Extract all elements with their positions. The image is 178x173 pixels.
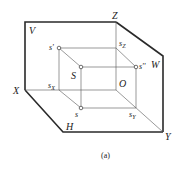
label-s: s bbox=[75, 110, 78, 119]
line-sz-s2 bbox=[116, 48, 136, 67]
label-s-double-prime: s'' bbox=[139, 62, 146, 71]
label-x-axis: X bbox=[12, 85, 20, 96]
label-sz: sZ bbox=[119, 39, 126, 49]
label-h-plane: H bbox=[65, 121, 74, 132]
label-z-axis: Z bbox=[112, 10, 118, 21]
point-s-double-prime bbox=[134, 65, 138, 69]
label-y-axis: Y bbox=[165, 131, 172, 142]
point-s-prime bbox=[57, 46, 61, 50]
label-s-prime: s' bbox=[49, 43, 54, 52]
projection-diagram: V W H Z X Y O s' S s'' s sZ sX sY (a) bbox=[0, 0, 178, 173]
label-origin: O bbox=[119, 78, 126, 89]
h-plane-outline bbox=[25, 90, 163, 132]
label-w-plane: W bbox=[151, 59, 161, 70]
point-S bbox=[79, 65, 83, 69]
line-sx-s bbox=[59, 90, 81, 108]
label-sx: sX bbox=[48, 81, 55, 91]
w-plane-outline bbox=[116, 22, 163, 132]
point-s bbox=[79, 106, 83, 110]
figure-caption: (a) bbox=[101, 151, 110, 160]
label-v-plane: V bbox=[29, 25, 37, 36]
y-axis bbox=[116, 90, 163, 132]
label-sy: sY bbox=[129, 110, 136, 120]
label-S: S bbox=[71, 70, 76, 81]
line-s1-S bbox=[59, 48, 81, 67]
